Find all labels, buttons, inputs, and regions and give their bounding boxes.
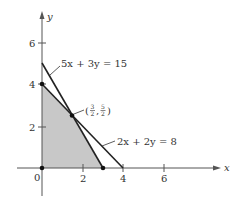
origin-label: 0 bbox=[34, 172, 40, 183]
svg-text:3: 3 bbox=[91, 103, 95, 110]
leader-line1 bbox=[50, 66, 60, 75]
ytick-label-2: 2 bbox=[29, 122, 35, 133]
feasible-region-chart: y x 0 2 4 6 2 4 6 5x + 3y = 15 2x + 2y =… bbox=[0, 0, 245, 201]
xtick-label-4: 4 bbox=[120, 173, 126, 184]
svg-text:(: ( bbox=[85, 105, 89, 116]
x-axis-arrow-icon bbox=[213, 166, 221, 171]
line1-label: 5x + 3y = 15 bbox=[61, 58, 127, 69]
svg-text:5: 5 bbox=[101, 103, 105, 110]
xtick-label-6: 6 bbox=[161, 173, 167, 184]
leader-line2 bbox=[102, 141, 115, 146]
xtick-label-2: 2 bbox=[80, 173, 86, 184]
vertex-3-0 bbox=[101, 166, 106, 171]
y-axis-arrow-icon bbox=[40, 11, 45, 19]
svg-text:): ) bbox=[107, 105, 111, 116]
ytick-label-6: 6 bbox=[29, 38, 35, 49]
svg-text:2: 2 bbox=[101, 110, 105, 117]
feasible-region bbox=[42, 84, 103, 168]
ytick-label-4: 4 bbox=[29, 79, 35, 90]
line2-label: 2x + 2y = 8 bbox=[117, 136, 177, 147]
svg-text:,: , bbox=[96, 105, 99, 116]
leader-point bbox=[74, 110, 84, 114]
vertex-origin bbox=[40, 166, 45, 171]
x-axis-label: x bbox=[224, 162, 230, 173]
vertex-intersection bbox=[70, 113, 75, 118]
intersection-label: ( 3 2 , 5 2 ) bbox=[85, 103, 111, 117]
svg-text:2: 2 bbox=[91, 110, 95, 117]
vertex-0-4 bbox=[40, 82, 45, 87]
y-axis-label: y bbox=[46, 11, 53, 22]
